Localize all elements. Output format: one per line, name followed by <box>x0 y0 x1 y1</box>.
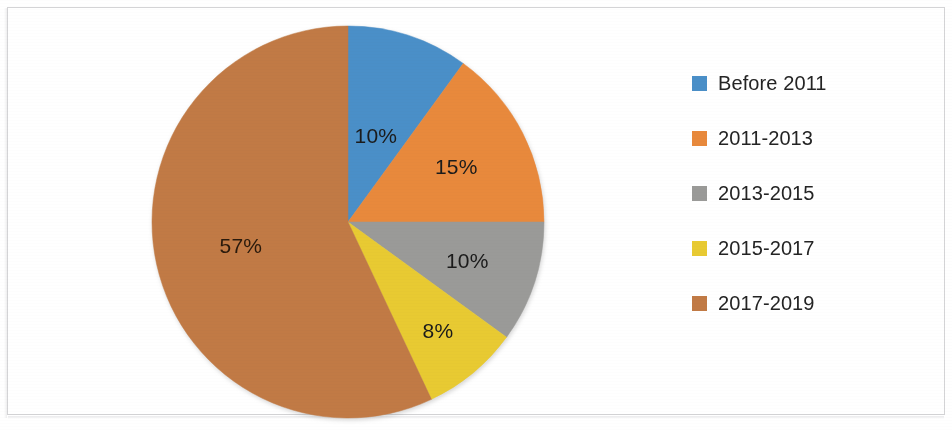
plot-area: 10%15%10%8%57% Before 20112011-20132013-… <box>8 8 944 414</box>
legend-item-label: 2013-2015 <box>718 182 815 205</box>
chart-page: 10%15%10%8%57% Before 20112011-20132013-… <box>0 0 952 430</box>
pie-slice-group <box>152 26 544 418</box>
legend-item-label: 2017-2019 <box>718 292 815 315</box>
legend-color-swatch-icon <box>692 76 707 91</box>
pie-slice-data-label: 10% <box>446 249 489 273</box>
pie-slice-data-label: 15% <box>435 155 478 179</box>
pie-slice-data-label: 57% <box>220 234 263 258</box>
legend-item-label: Before 2011 <box>718 72 827 95</box>
legend-item-label: 2011-2013 <box>718 127 813 150</box>
pie-slice-data-label: 8% <box>423 319 454 343</box>
legend-color-swatch-icon <box>692 131 707 146</box>
pie-chart: 10%15%10%8%57% <box>150 24 546 420</box>
chart-legend: Before 20112011-20132013-20152015-201720… <box>692 70 922 317</box>
legend-color-swatch-icon <box>692 186 707 201</box>
legend-item[interactable]: 2017-2019 <box>692 290 922 317</box>
legend-item-label: 2015-2017 <box>718 237 815 260</box>
legend-item[interactable]: 2015-2017 <box>692 235 922 262</box>
legend-color-swatch-icon <box>692 296 707 311</box>
legend-item[interactable]: 2011-2013 <box>692 125 922 152</box>
pie-slice-data-label: 10% <box>355 124 398 148</box>
legend-color-swatch-icon <box>692 241 707 256</box>
legend-item[interactable]: 2013-2015 <box>692 180 922 207</box>
legend-item[interactable]: Before 2011 <box>692 70 922 97</box>
pie-chart-svg <box>150 24 546 420</box>
